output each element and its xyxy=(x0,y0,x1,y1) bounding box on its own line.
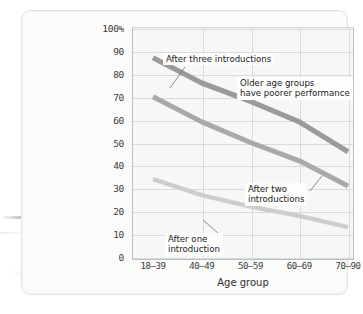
gridline-horizontal xyxy=(133,189,353,190)
gridline-vertical xyxy=(349,28,350,259)
y-axis-tick-label: 30 xyxy=(113,183,124,194)
y-axis-tick-label: 90 xyxy=(113,45,124,56)
gridline-horizontal xyxy=(133,144,353,145)
gridline-vertical xyxy=(300,28,301,259)
y-axis-tick-label: 100% xyxy=(102,23,124,34)
y-axis-tick-label: 70 xyxy=(113,91,124,102)
x-axis-tick-label: 40–49 xyxy=(189,261,214,271)
y-axis-tick-label: 40 xyxy=(113,160,124,171)
x-axis-tick-labels: 18–3940–4950–5960–6970–90 xyxy=(132,261,354,275)
annotation-after-two-introductions: After two introductions xyxy=(245,183,307,206)
y-axis-tick-label: 80 xyxy=(113,68,124,79)
y-axis-tick-label: 60 xyxy=(113,114,124,125)
gridline-horizontal xyxy=(133,212,353,213)
y-axis-tick-label: 50 xyxy=(113,137,124,148)
gridline-horizontal xyxy=(133,75,353,76)
x-axis-title: Age group xyxy=(132,277,354,288)
y-axis-tick-label: 0 xyxy=(119,252,124,263)
x-axis-tick-label: 50–59 xyxy=(238,261,263,271)
y-axis-tick-labels: 100%9080706050403020100 xyxy=(84,27,128,258)
annotation-older-age-groups: Older age groups have poorer performance xyxy=(237,77,353,100)
x-axis-tick-label: 18–39 xyxy=(140,261,165,271)
annotation-after-one-introduction: After one introduction xyxy=(165,233,223,256)
gridline-horizontal xyxy=(133,29,353,30)
gridline-horizontal xyxy=(133,121,353,122)
y-axis-tick-label: 20 xyxy=(113,206,124,217)
x-axis-tick-label: 60–69 xyxy=(287,261,312,271)
figure-card: 100%9080706050403020100 18–3940–4950–596… xyxy=(21,10,348,295)
annotation-after-three-introductions: After three introductions xyxy=(163,53,274,65)
gridline-horizontal xyxy=(133,258,353,259)
gridline-horizontal xyxy=(133,166,353,167)
x-axis-tick-label: 70–90 xyxy=(335,261,360,271)
y-axis-tick-label: 10 xyxy=(113,229,124,240)
